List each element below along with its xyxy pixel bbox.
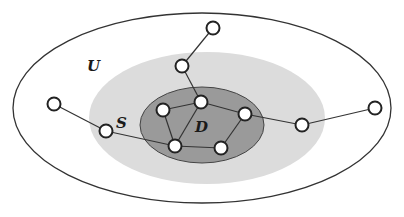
graph-node — [215, 142, 228, 155]
graph-node — [195, 96, 208, 109]
label-universe: U — [87, 57, 101, 75]
graph-node — [239, 108, 252, 121]
label-dense: D — [194, 118, 208, 136]
graph-node — [207, 22, 220, 35]
graph-node — [48, 98, 61, 111]
graph-node — [296, 119, 309, 132]
graph-node — [169, 140, 182, 153]
graph-node — [157, 104, 170, 117]
graph-node — [100, 125, 113, 138]
graph-node — [369, 102, 382, 115]
graph-diagram: U S D — [0, 0, 404, 217]
label-seed: S — [116, 114, 127, 132]
graph-node — [176, 60, 189, 73]
